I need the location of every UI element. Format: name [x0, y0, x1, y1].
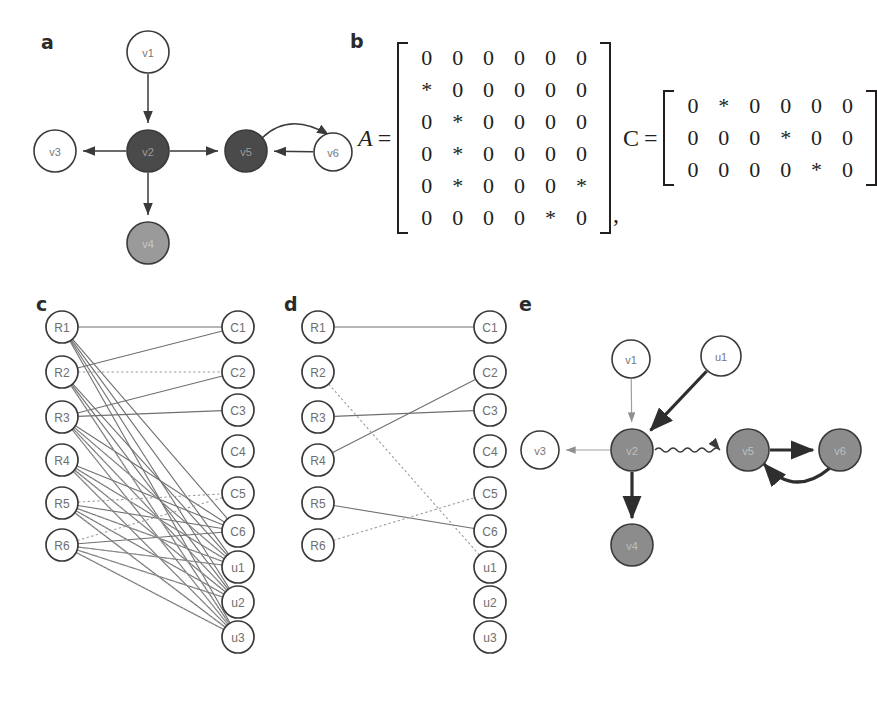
graph-layer: v1v2v3v4v5v6 R1R2R3R4R5R6C1C2C3C4C5C6u1u… [0, 0, 877, 704]
edge-R2-u1 [329, 384, 480, 555]
edge-R3-u3 [72, 429, 228, 624]
node-label: R5 [54, 497, 70, 511]
graph-node-R5[interactable]: R5 [46, 487, 78, 519]
node-label: C5 [230, 487, 246, 501]
edge-u1-v2 [651, 371, 707, 430]
graph-node-v1[interactable]: v1 [127, 31, 169, 73]
node-label: v3 [534, 445, 546, 457]
node-label: R2 [310, 366, 326, 380]
node-label: v5 [240, 146, 252, 158]
graph-node-v5[interactable]: v5 [225, 130, 267, 172]
graph-node-C1[interactable]: C1 [474, 311, 506, 343]
graph-node-R4[interactable]: R4 [46, 444, 78, 476]
edge-R6-C6 [78, 532, 222, 543]
graph-node-C6[interactable]: C6 [474, 515, 506, 547]
graph-node-R6[interactable]: R6 [46, 529, 78, 561]
node-label: C1 [482, 321, 498, 335]
graph-node-R1[interactable]: R1 [46, 311, 78, 343]
edge-v5-v6 [262, 124, 329, 138]
node-label: C6 [482, 525, 498, 539]
panel-e-graph: v1u1v2v3v4v5v6 [521, 336, 861, 566]
graph-node-v3[interactable]: v3 [521, 431, 559, 469]
node-label: u3 [483, 631, 497, 645]
edge-R6-C5 [333, 498, 474, 541]
node-label: C6 [230, 525, 246, 539]
node-label: u1 [715, 351, 727, 363]
graph-node-u3[interactable]: u3 [474, 621, 506, 653]
edge-v6-v5 [764, 464, 830, 482]
graph-node-R2[interactable]: R2 [302, 356, 334, 388]
graph-node-v6[interactable]: v6 [819, 429, 861, 471]
graph-node-C2[interactable]: C2 [222, 356, 254, 388]
node-label: u2 [231, 596, 245, 610]
graph-node-v2[interactable]: v2 [611, 429, 653, 471]
edge-R3-C2 [78, 376, 223, 413]
graph-node-C1[interactable]: C1 [222, 311, 254, 343]
graph-node-R6[interactable]: R6 [302, 529, 334, 561]
graph-node-C3[interactable]: C3 [474, 394, 506, 426]
graph-node-C2[interactable]: C2 [474, 356, 506, 388]
graph-node-C4[interactable]: C4 [474, 435, 506, 467]
node-label: v5 [742, 445, 754, 457]
graph-node-v6[interactable]: v6 [314, 133, 352, 171]
node-label: R1 [54, 321, 70, 335]
edge-R5-u3 [75, 513, 226, 628]
edge-v2-v5 [655, 448, 720, 452]
graph-node-v4[interactable]: v4 [127, 222, 169, 264]
node-label: u3 [231, 631, 245, 645]
graph-node-R3[interactable]: R3 [46, 401, 78, 433]
panel-c-graph: R1R2R3R4R5R6C1C2C3C4C5C6u1u2u3 [46, 311, 254, 653]
node-label: C4 [230, 445, 246, 459]
graph-node-v2[interactable]: v2 [127, 130, 169, 172]
graph-node-v4[interactable]: v4 [611, 524, 653, 566]
graph-node-R4[interactable]: R4 [302, 444, 334, 476]
node-label: v6 [834, 445, 846, 457]
graph-node-u2[interactable]: u2 [222, 586, 254, 618]
node-label: C4 [482, 445, 498, 459]
graph-node-u1[interactable]: u1 [701, 336, 741, 376]
node-label: R5 [310, 497, 326, 511]
graph-node-C5[interactable]: C5 [474, 477, 506, 509]
graph-node-v1[interactable]: v1 [612, 340, 650, 378]
graph-node-R2[interactable]: R2 [46, 356, 78, 388]
node-label: v1 [142, 47, 154, 59]
node-label: C1 [230, 321, 246, 335]
node-label: v4 [626, 540, 638, 552]
node-label: R3 [54, 411, 70, 425]
node-label: R2 [54, 366, 70, 380]
node-label: R3 [310, 411, 326, 425]
node-label: R4 [54, 454, 70, 468]
graph-node-v3[interactable]: v3 [34, 130, 76, 172]
node-label: v2 [626, 445, 638, 457]
node-label: v2 [142, 146, 154, 158]
graph-node-C5[interactable]: C5 [222, 477, 254, 509]
node-label: R1 [310, 321, 326, 335]
node-label: u1 [483, 561, 497, 575]
node-label: u2 [483, 596, 497, 610]
graph-node-C4[interactable]: C4 [222, 435, 254, 467]
graph-node-u1[interactable]: u1 [474, 551, 506, 583]
graph-node-u3[interactable]: u3 [222, 621, 254, 653]
graph-node-u2[interactable]: u2 [474, 586, 506, 618]
node-label: R4 [310, 454, 326, 468]
node-label: C3 [482, 404, 498, 418]
graph-node-R1[interactable]: R1 [302, 311, 334, 343]
edge-R2-C1 [78, 331, 223, 368]
graph-node-C3[interactable]: C3 [222, 394, 254, 426]
figure-canvas: a b c d e A = 000000*000000*00000*00000*… [0, 0, 877, 704]
node-label: v6 [327, 147, 339, 159]
edge-R1-u3 [70, 341, 230, 623]
node-label: v3 [49, 146, 61, 158]
edge-R1-u2 [71, 340, 230, 588]
graph-node-R3[interactable]: R3 [302, 401, 334, 433]
node-label: R6 [310, 539, 326, 553]
graph-node-R5[interactable]: R5 [302, 487, 334, 519]
node-label: R6 [54, 539, 70, 553]
panel-a-graph: v1v2v3v4v5v6 [34, 31, 352, 264]
node-label: v1 [625, 354, 637, 366]
graph-node-u1[interactable]: u1 [222, 551, 254, 583]
graph-node-C6[interactable]: C6 [222, 515, 254, 547]
node-label: v4 [142, 238, 154, 250]
node-label: C2 [482, 366, 498, 380]
graph-node-v5[interactable]: v5 [727, 429, 769, 471]
